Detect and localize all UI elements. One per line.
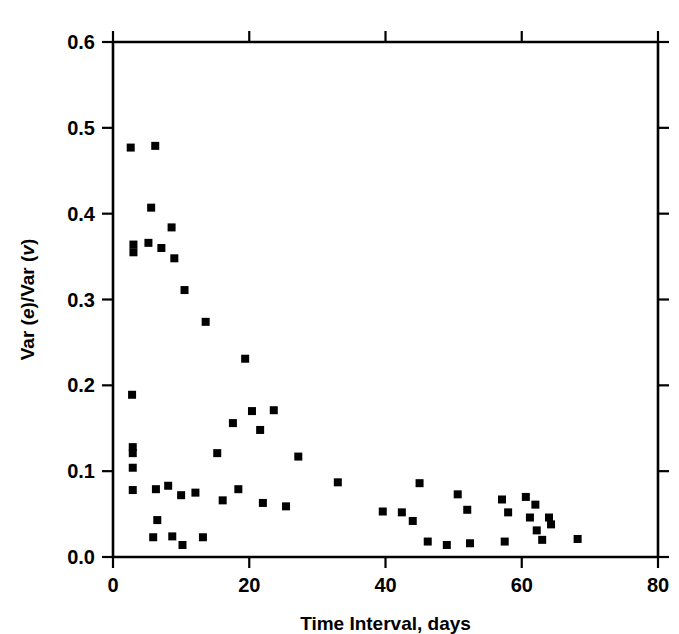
data-point (234, 485, 242, 493)
y-tick-label: 0.3 (67, 289, 95, 311)
data-point (259, 499, 267, 507)
data-point (168, 532, 176, 540)
data-point (466, 539, 474, 547)
data-point (294, 453, 302, 461)
data-point (153, 516, 161, 524)
data-point (443, 541, 451, 549)
y-tick-label: 0.5 (67, 117, 95, 139)
data-point (199, 533, 207, 541)
data-point (149, 533, 157, 541)
data-point (170, 254, 178, 262)
data-point (177, 491, 185, 499)
y-tick-label: 0.6 (67, 31, 95, 53)
data-point (168, 223, 176, 231)
data-point (538, 536, 546, 544)
data-point (147, 204, 155, 212)
data-point (398, 508, 406, 516)
data-point (409, 517, 417, 525)
data-point (256, 426, 264, 434)
data-point (152, 485, 160, 493)
data-point (522, 493, 530, 501)
data-point (424, 538, 432, 546)
data-point (164, 482, 172, 490)
data-point (129, 248, 137, 256)
y-axis-title-text: Var (e)/Var (v) (17, 239, 38, 361)
data-point (191, 489, 199, 497)
data-point (241, 355, 249, 363)
data-point (282, 502, 290, 510)
data-point (379, 508, 387, 516)
data-series (127, 142, 582, 549)
data-point (144, 239, 152, 247)
data-point (270, 406, 278, 414)
data-point (129, 464, 137, 472)
y-tick-label: 0.4 (67, 203, 96, 225)
data-point (229, 419, 237, 427)
data-point (504, 508, 512, 516)
data-point (181, 286, 189, 294)
x-tick-label: 60 (511, 574, 533, 596)
data-point (454, 490, 462, 498)
y-tick-label: 0.2 (67, 374, 95, 396)
y-tick-label: 0.0 (67, 546, 95, 568)
y-axis-title: Var (e)/Var (v) (17, 239, 38, 361)
data-point (526, 514, 534, 522)
data-point (202, 318, 210, 326)
data-point (334, 478, 342, 486)
x-axis-ticks: 020406080 (107, 31, 669, 596)
data-point (129, 449, 137, 457)
data-point (531, 501, 539, 509)
data-point (533, 526, 541, 534)
data-point (219, 496, 227, 504)
data-point (127, 144, 135, 152)
data-point (129, 241, 137, 249)
data-point (129, 486, 137, 494)
data-point (416, 479, 424, 487)
data-point (248, 407, 256, 415)
x-tick-label: 80 (647, 574, 669, 596)
data-point (151, 142, 159, 150)
plot-frame (113, 42, 658, 557)
x-tick-label: 20 (238, 574, 260, 596)
x-axis-title: Time Interval, days (300, 613, 471, 634)
data-point (498, 495, 506, 503)
data-point (574, 535, 582, 543)
data-point (501, 538, 509, 546)
data-point (547, 520, 555, 528)
plot-canvas: 0204060800.00.10.20.30.40.50.6Time Inter… (0, 0, 679, 634)
x-tick-label: 0 (107, 574, 118, 596)
scatter-plot-figure: 0204060800.00.10.20.30.40.50.6Time Inter… (0, 0, 679, 634)
data-point (463, 506, 471, 514)
data-point (157, 244, 165, 252)
y-tick-label: 0.1 (67, 460, 95, 482)
data-point (178, 541, 186, 549)
x-tick-label: 40 (374, 574, 396, 596)
data-point (545, 514, 553, 522)
data-point (128, 391, 136, 399)
data-point (213, 449, 221, 457)
